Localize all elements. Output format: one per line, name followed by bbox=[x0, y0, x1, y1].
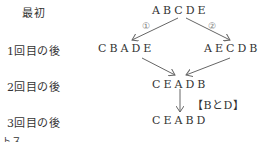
footer-fragment: トス bbox=[2, 134, 21, 142]
sequence-after2: CEADB bbox=[152, 78, 208, 91]
row-label-after3: 3回目の後 bbox=[7, 114, 61, 130]
swap-note: 【BとD】 bbox=[192, 96, 244, 112]
arrow-left-to-merge bbox=[142, 58, 175, 75]
row-label-after1: 1回目の後 bbox=[7, 42, 61, 58]
row-label-after2: 2回目の後 bbox=[7, 78, 61, 94]
sequence-after1-right: AECDB bbox=[204, 42, 260, 55]
sequence-after1-left: CBADE bbox=[98, 42, 154, 55]
row-label-initial: 最初 bbox=[22, 4, 45, 20]
sequence-after3: CEABD bbox=[152, 114, 208, 127]
arrow-right-to-merge bbox=[186, 58, 230, 75]
branch-label-1: ① bbox=[142, 21, 150, 31]
sequence-initial: ABCDE bbox=[152, 4, 209, 17]
arrow-to-left-branch bbox=[132, 18, 178, 40]
branch-label-2: ② bbox=[208, 21, 216, 31]
